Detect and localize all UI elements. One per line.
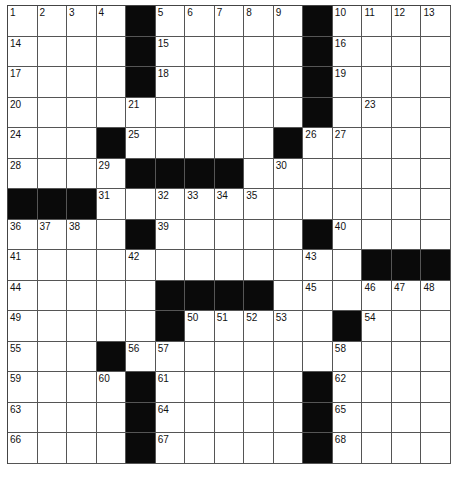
grid-cell[interactable]: 28 [8,159,38,190]
grid-cell[interactable] [333,250,363,281]
grid-cell[interactable] [215,98,245,129]
grid-cell[interactable] [274,281,304,312]
grid-cell[interactable] [185,250,215,281]
grid-cell[interactable] [244,372,274,403]
grid-cell[interactable] [215,250,245,281]
grid-cell[interactable]: 31 [97,189,127,220]
grid-cell[interactable] [38,403,68,434]
grid-cell[interactable] [392,98,422,129]
grid-cell[interactable] [274,403,304,434]
grid-cell[interactable]: 56 [126,342,156,373]
grid-cell[interactable] [38,342,68,373]
grid-cell[interactable] [392,128,422,159]
grid-cell[interactable] [67,128,97,159]
grid-cell[interactable] [392,220,422,251]
grid-cell[interactable] [244,220,274,251]
grid-cell[interactable] [244,159,274,190]
grid-cell[interactable] [67,433,97,464]
grid-cell[interactable] [38,98,68,129]
grid-cell[interactable] [67,159,97,190]
grid-cell[interactable] [392,372,422,403]
grid-cell[interactable]: 17 [8,67,38,98]
grid-cell[interactable]: 57 [156,342,186,373]
grid-cell[interactable]: 27 [333,128,363,159]
grid-cell[interactable] [333,281,363,312]
grid-cell[interactable] [67,342,97,373]
grid-cell[interactable] [156,98,186,129]
grid-cell[interactable] [244,403,274,434]
grid-cell[interactable]: 60 [97,372,127,403]
grid-cell[interactable]: 8 [244,6,274,37]
grid-cell[interactable] [421,37,451,68]
grid-cell[interactable]: 54 [362,311,392,342]
grid-cell[interactable] [274,250,304,281]
grid-cell[interactable]: 50 [185,311,215,342]
grid-cell[interactable] [156,250,186,281]
grid-cell[interactable]: 38 [67,220,97,251]
grid-cell[interactable] [392,342,422,373]
grid-cell[interactable] [67,67,97,98]
grid-cell[interactable]: 5 [156,6,186,37]
grid-cell[interactable] [185,372,215,403]
grid-cell[interactable] [185,67,215,98]
grid-cell[interactable] [244,250,274,281]
grid-cell[interactable] [38,37,68,68]
grid-cell[interactable] [67,311,97,342]
grid-cell[interactable] [126,311,156,342]
grid-cell[interactable]: 49 [8,311,38,342]
grid-cell[interactable] [244,433,274,464]
grid-cell[interactable] [67,37,97,68]
grid-cell[interactable] [185,98,215,129]
grid-cell[interactable]: 53 [274,311,304,342]
grid-cell[interactable] [303,189,333,220]
grid-cell[interactable]: 42 [126,250,156,281]
grid-cell[interactable] [303,342,333,373]
grid-cell[interactable] [362,128,392,159]
grid-cell[interactable] [303,159,333,190]
grid-cell[interactable]: 3 [67,6,97,37]
grid-cell[interactable] [97,281,127,312]
grid-cell[interactable]: 9 [274,6,304,37]
grid-cell[interactable] [362,220,392,251]
grid-cell[interactable]: 48 [421,281,451,312]
grid-cell[interactable] [362,342,392,373]
grid-cell[interactable]: 35 [244,189,274,220]
grid-cell[interactable] [215,372,245,403]
grid-cell[interactable]: 67 [156,433,186,464]
grid-cell[interactable] [97,403,127,434]
grid-cell[interactable] [244,67,274,98]
grid-cell[interactable]: 55 [8,342,38,373]
grid-cell[interactable]: 30 [274,159,304,190]
grid-cell[interactable]: 7 [215,6,245,37]
grid-cell[interactable] [421,98,451,129]
grid-cell[interactable]: 20 [8,98,38,129]
grid-cell[interactable] [362,159,392,190]
grid-cell[interactable]: 46 [362,281,392,312]
grid-cell[interactable]: 4 [97,6,127,37]
grid-cell[interactable]: 33 [185,189,215,220]
grid-cell[interactable] [274,342,304,373]
grid-cell[interactable]: 39 [156,220,186,251]
grid-cell[interactable] [421,189,451,220]
grid-cell[interactable] [421,220,451,251]
grid-cell[interactable]: 34 [215,189,245,220]
grid-cell[interactable] [185,220,215,251]
grid-cell[interactable] [274,37,304,68]
grid-cell[interactable] [362,372,392,403]
grid-cell[interactable] [421,311,451,342]
grid-cell[interactable]: 21 [126,98,156,129]
grid-cell[interactable]: 26 [303,128,333,159]
grid-cell[interactable] [244,98,274,129]
grid-cell[interactable] [38,159,68,190]
grid-cell[interactable]: 64 [156,403,186,434]
grid-cell[interactable] [421,372,451,403]
grid-cell[interactable] [362,37,392,68]
grid-cell[interactable] [274,433,304,464]
grid-cell[interactable] [215,37,245,68]
grid-cell[interactable] [38,372,68,403]
grid-cell[interactable] [274,189,304,220]
grid-cell[interactable] [97,220,127,251]
grid-cell[interactable]: 61 [156,372,186,403]
grid-cell[interactable]: 32 [156,189,186,220]
grid-cell[interactable] [126,281,156,312]
